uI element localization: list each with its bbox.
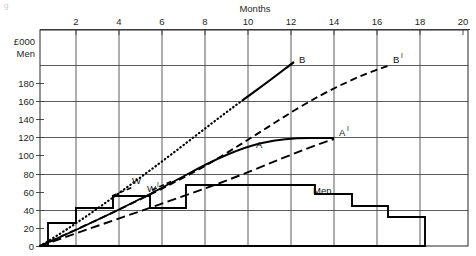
x-tick-label: 20	[458, 16, 469, 27]
x-tick-label: 12	[286, 16, 297, 27]
x-tick-labels: 2 4 6 8 10 12 14 16 18 20	[73, 16, 468, 27]
y-tick-label: 160	[18, 96, 34, 107]
page-fragment-text: g	[4, 1, 8, 10]
x-tick-label: 2	[73, 16, 78, 27]
series-label-men: Men	[313, 185, 331, 196]
x-tick-label: 14	[329, 16, 340, 27]
series-label-w-prime: W I	[147, 181, 159, 194]
series-label-a-prime-sup: I	[347, 125, 349, 132]
y-tick-label: 0	[29, 241, 34, 252]
y-tick-labels: 180 160 140 120 100 80 60 40 20 0	[18, 78, 34, 252]
series-b-dotted	[40, 100, 243, 246]
y-tick-label: 80	[23, 169, 34, 180]
series-label-a-prime-base: A	[339, 127, 346, 138]
y-tick-label: 40	[23, 205, 34, 216]
y-tick-label: 20	[23, 223, 34, 234]
y-axis-unit-men: Men	[17, 48, 35, 59]
x-tick-label: 10	[243, 16, 254, 27]
series-label-w-prime-sup: I	[157, 181, 159, 188]
x-axis-title: Months	[239, 3, 270, 14]
x-tick-label: 6	[159, 16, 164, 27]
y-tick-label: 180	[18, 78, 34, 89]
series-a-prime	[40, 139, 334, 246]
y-tick-label: 120	[18, 132, 34, 143]
chart-svg: g Months 2 4 6 8 10 12 14 16 18 20	[0, 0, 476, 256]
y-axis-unit-currency: £000	[14, 36, 35, 47]
series-label-b-prime: B I	[393, 52, 403, 65]
plot-grid	[40, 30, 468, 246]
y-tick-label: 100	[18, 150, 34, 161]
x-tick-label: 8	[202, 16, 207, 27]
series-label-w-prime-base: W	[147, 183, 156, 194]
series-b-prime	[40, 66, 388, 246]
series-label-b: B	[299, 54, 305, 65]
chart-root: g Months 2 4 6 8 10 12 14 16 18 20	[0, 0, 476, 256]
series-label-b-prime-sup: I	[401, 52, 403, 59]
series-w	[112, 187, 133, 196]
series-label-a-prime: A I	[339, 125, 349, 138]
y-tick-label: 140	[18, 114, 34, 125]
y-tick-label: 60	[23, 187, 34, 198]
series-men-step	[40, 185, 425, 246]
x-tick-label: 18	[415, 16, 426, 27]
x-tick-label: 4	[116, 16, 121, 27]
series-label-b-prime-base: B	[393, 54, 399, 65]
series-b-solid	[243, 62, 294, 100]
x-tick-label: 16	[372, 16, 383, 27]
plot-frame	[40, 30, 468, 246]
series-label-w: W	[132, 175, 141, 186]
series-label-a: A	[256, 139, 263, 150]
